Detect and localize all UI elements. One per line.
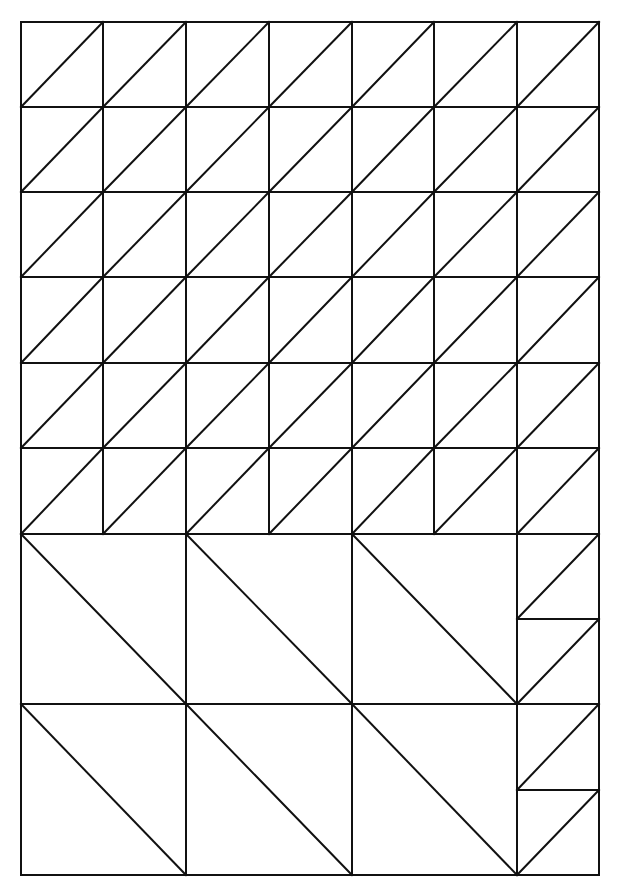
small-cell-diagonal xyxy=(103,192,186,277)
small-cell-diagonal xyxy=(103,277,186,363)
small-cell-diagonal xyxy=(21,192,103,277)
right-strip-diagonal xyxy=(517,619,599,704)
small-cell-diagonal xyxy=(186,107,269,192)
small-cell-diagonal xyxy=(103,107,186,192)
big-square-diagonal xyxy=(186,534,352,704)
small-cell-diagonal xyxy=(103,22,186,107)
small-cell-diagonal xyxy=(21,22,103,107)
small-cell-diagonal xyxy=(517,107,599,192)
small-cell-diagonal xyxy=(517,277,599,363)
small-cell-diagonal xyxy=(434,363,517,448)
small-cell-diagonal xyxy=(21,277,103,363)
big-square-diagonal xyxy=(352,704,517,875)
small-cell-diagonal xyxy=(186,22,269,107)
big-square-diagonal xyxy=(186,704,352,875)
right-strip-diagonal xyxy=(517,704,599,790)
diagram-svg xyxy=(0,0,625,895)
small-cell-diagonal xyxy=(352,277,434,363)
small-cell-diagonal xyxy=(434,277,517,363)
big-square-diagonal xyxy=(21,704,186,875)
small-cell-diagonal xyxy=(269,107,352,192)
small-cell-diagonal xyxy=(269,448,352,534)
big-square-diagonal xyxy=(352,534,517,704)
small-cell-diagonal xyxy=(517,448,599,534)
small-cell-diagonal xyxy=(186,448,269,534)
small-cell-diagonal xyxy=(517,363,599,448)
small-cell-diagonal xyxy=(352,448,434,534)
small-cell-diagonal xyxy=(269,192,352,277)
small-cell-diagonal xyxy=(21,448,103,534)
small-cell-diagonal xyxy=(434,448,517,534)
small-cell-diagonal xyxy=(517,22,599,107)
small-cell-diagonal xyxy=(269,277,352,363)
small-cell-diagonal xyxy=(21,107,103,192)
triangle-grid-diagram xyxy=(0,0,625,895)
small-cell-diagonal xyxy=(186,192,269,277)
small-cell-diagonal xyxy=(352,107,434,192)
small-cell-diagonal xyxy=(352,22,434,107)
small-cell-diagonal xyxy=(434,192,517,277)
small-cell-diagonal xyxy=(352,363,434,448)
small-cell-diagonal xyxy=(21,363,103,448)
small-cell-diagonal xyxy=(269,22,352,107)
small-cell-diagonal xyxy=(103,363,186,448)
small-cell-diagonal xyxy=(434,107,517,192)
small-cell-diagonal xyxy=(517,192,599,277)
small-cell-diagonal xyxy=(186,363,269,448)
small-cell-diagonal xyxy=(186,277,269,363)
right-strip-diagonal xyxy=(517,790,599,875)
big-square-diagonal xyxy=(21,534,186,704)
small-cell-diagonal xyxy=(434,22,517,107)
small-cell-diagonal xyxy=(269,363,352,448)
small-cell-diagonal xyxy=(352,192,434,277)
small-cell-diagonal xyxy=(103,448,186,534)
right-strip-diagonal xyxy=(517,534,599,619)
